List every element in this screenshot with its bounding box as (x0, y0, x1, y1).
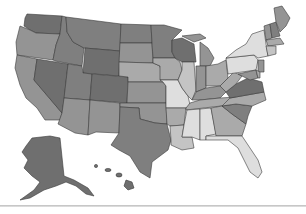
state-ar[interactable] (166, 108, 186, 126)
state-sd[interactable] (119, 43, 153, 63)
state-ak[interactable] (20, 136, 94, 200)
state-in[interactable] (196, 66, 206, 92)
state-hi-bigisland[interactable] (124, 180, 134, 190)
state-nm[interactable] (88, 100, 120, 135)
state-hi-niihau[interactable] (94, 164, 97, 167)
state-nd[interactable] (120, 24, 152, 43)
state-co[interactable] (90, 74, 128, 103)
state-wy[interactable] (83, 48, 120, 76)
state-ct[interactable] (266, 46, 276, 56)
state-ks[interactable] (127, 82, 166, 103)
map-svg (0, 0, 306, 214)
state-hi-oahu[interactable] (105, 168, 111, 171)
state-ny[interactable] (226, 30, 268, 58)
us-choropleth-map (0, 0, 306, 214)
state-hi-maui[interactable] (116, 173, 122, 177)
state-nj[interactable] (258, 60, 264, 72)
bottom-divider (0, 205, 306, 207)
state-fl[interactable] (206, 136, 262, 178)
state-wi[interactable] (172, 38, 196, 62)
